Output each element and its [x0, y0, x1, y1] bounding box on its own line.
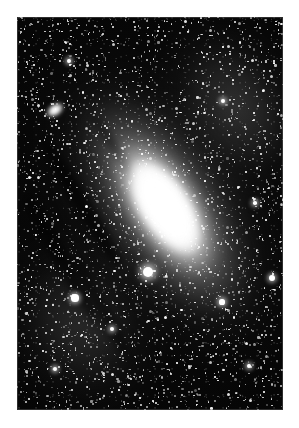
plate-grain: [17, 17, 283, 410]
photograph-page: [0, 0, 299, 428]
astronomical-plate: [17, 17, 283, 410]
